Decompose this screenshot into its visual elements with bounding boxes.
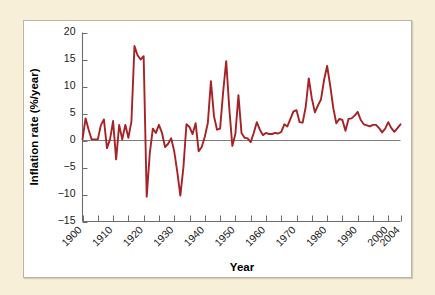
x-tick-label: 1930 xyxy=(151,223,176,248)
y-tick-label: 20 xyxy=(64,25,76,37)
y-tick-label: −5 xyxy=(64,160,76,172)
x-tick-label: 1990 xyxy=(334,223,359,248)
y-axis-title: Inflation rate (%/year) xyxy=(28,68,40,185)
x-tick-label: 1950 xyxy=(212,223,237,248)
y-tick-label: 5 xyxy=(70,106,76,118)
y-tick-label: 10 xyxy=(64,79,76,91)
y-tick-label: −15 xyxy=(58,214,76,226)
x-tick-label: 1920 xyxy=(120,223,145,248)
x-tick-label: 1910 xyxy=(90,223,115,248)
y-tick-label: −10 xyxy=(58,187,76,199)
x-tick-label: 1940 xyxy=(181,223,206,248)
y-tick-label: 15 xyxy=(64,52,76,64)
x-tick-label: 1900 xyxy=(59,223,84,248)
x-tick-label: 1970 xyxy=(273,223,298,248)
y-axis-tick-labels: 20151050−5−10−15 xyxy=(58,25,76,226)
chart-panel: 20151050−5−10−15 19001910192019301940195… xyxy=(23,20,412,278)
inflation-line-chart: 20151050−5−10−15 19001910192019301940195… xyxy=(24,21,411,277)
x-axis-title: Year xyxy=(230,261,255,273)
figure-root: 20151050−5−10−15 19001910192019301940195… xyxy=(0,0,435,295)
y-tick-label: 0 xyxy=(70,133,76,145)
x-tick-label: 1960 xyxy=(242,223,267,248)
x-axis-tick-labels: 1900191019201930194019501960197019801990… xyxy=(59,223,402,248)
inflation-data-line xyxy=(83,46,401,197)
x-tick-label: 1980 xyxy=(304,223,329,248)
